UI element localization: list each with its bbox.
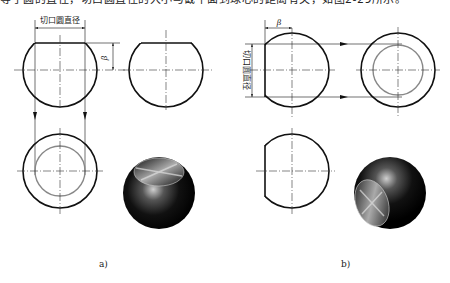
panel-b: β 切口圆直径 (242, 18, 440, 231)
panel-a-front-view (14, 33, 125, 110)
panel-b-beta-label: β (276, 18, 282, 27)
panel-b-side-view (356, 27, 440, 116)
panel-a-top-view (17, 128, 103, 214)
panel-b-caption: b) (341, 259, 350, 269)
panel-a-sphere-render (123, 157, 195, 229)
panel-a-side-view (123, 30, 212, 110)
panel-a-caption: a) (99, 259, 108, 269)
panel-a-dimension-label: 切口圆直径 (40, 15, 80, 25)
panel-a-beta-dimension: β (85, 43, 120, 70)
panel-b-dimension-label: 切口圆直径 (242, 50, 252, 90)
sphere-cut-diagram: 切口圆直径 β (0, 0, 450, 283)
panel-b-sphere-render (349, 157, 426, 231)
panel-b-front-view (250, 28, 335, 118)
panel-b-diameter-dimension: 切口圆直径 (242, 44, 265, 97)
panel-a-beta-label: β (100, 55, 109, 61)
panel-b-top-view (255, 128, 335, 215)
panel-a: 切口圆直径 β (14, 15, 212, 229)
